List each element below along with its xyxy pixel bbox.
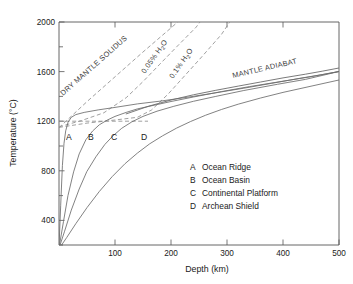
annotation-mantle-adiabat: MANTLE ADIABAT xyxy=(231,56,298,80)
curve-label-c: C xyxy=(111,132,117,142)
y-tick-label-2000: 2000 xyxy=(37,18,56,27)
legend-key-d: D xyxy=(190,201,196,211)
legend-item-d: D Archean Shield xyxy=(190,201,259,211)
legend: A Ocean Ridge B Ocean Basin C Continenta… xyxy=(190,162,278,211)
curve-d-archean-shield xyxy=(59,80,339,249)
svg-text:0.1% H2O: 0.1% H2O xyxy=(167,46,195,80)
x-tick-label-200: 200 xyxy=(164,249,178,258)
legend-key-b: B xyxy=(190,175,196,185)
y-tick-label-1600: 1600 xyxy=(37,68,56,77)
legend-label-d: Archean Shield xyxy=(202,201,259,211)
legend-label-a: Ocean Ridge xyxy=(202,162,251,172)
x-tick-labels: 100 200 300 400 500 xyxy=(108,249,346,258)
legend-item-c: C Continental Platform xyxy=(190,188,278,198)
curve-label-a: A xyxy=(66,132,72,142)
y-tick-label-400: 400 xyxy=(41,216,55,225)
x-tick-label-400: 400 xyxy=(276,249,290,258)
curve-label-d: D xyxy=(141,132,147,142)
legend-label-b: Ocean Basin xyxy=(202,175,250,185)
legend-key-c: C xyxy=(190,188,196,198)
x-tick-label-500: 500 xyxy=(332,249,346,258)
x-tick-label-100: 100 xyxy=(108,249,122,258)
annotation-dry-mantle-solidus: DRY MANTLE SOLIDUS xyxy=(58,34,129,98)
legend-label-c: Continental Platform xyxy=(202,188,278,198)
curve-c-continental-platform xyxy=(59,72,339,249)
figure-container: 2000 1600 1200 800 400 100 200 300 400 5… xyxy=(0,0,353,284)
y-tick-labels: 2000 1600 1200 800 400 xyxy=(37,18,56,225)
y-axis-title: Temperature (°C) xyxy=(8,99,18,167)
curve-a-ocean-ridge xyxy=(59,72,339,248)
y-tick-label-800: 800 xyxy=(41,167,55,176)
annotation-h2o-01: 0.1% H2O xyxy=(167,46,195,80)
mantle-geotherm-chart: 2000 1600 1200 800 400 100 200 300 400 5… xyxy=(0,0,353,284)
y-tick-label-1200: 1200 xyxy=(37,117,56,126)
curve-label-b: B xyxy=(88,132,94,142)
curve-letter-labels: A B C D xyxy=(66,132,147,142)
y-axis-ticks xyxy=(59,22,65,245)
legend-item-a: A Ocean Ridge xyxy=(190,162,251,172)
x-tick-label-300: 300 xyxy=(220,249,234,258)
legend-item-b: B Ocean Basin xyxy=(190,175,250,185)
curve-b-ocean-basin xyxy=(59,72,339,249)
legend-key-a: A xyxy=(190,162,196,172)
annotation-h2o-005-prefix: 0.05% H xyxy=(139,45,164,75)
x-axis-title: Depth (km) xyxy=(185,264,229,274)
